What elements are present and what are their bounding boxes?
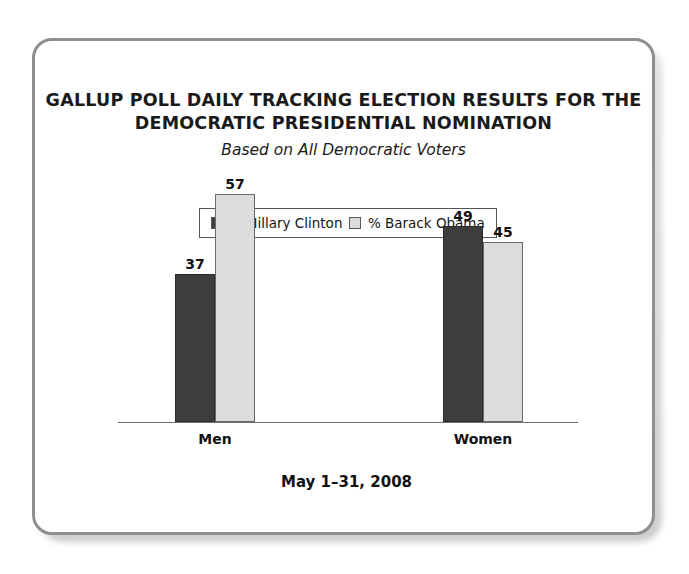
legend-label-clinton: % Hillary Clinton <box>230 215 342 231</box>
bar-value-men-clinton: 37 <box>185 257 204 271</box>
bar-rect-women-obama <box>483 242 523 422</box>
legend-swatch-icon-obama <box>349 217 361 229</box>
legend-item-hillary-clinton: % Hillary Clinton <box>211 215 342 231</box>
chart-title-line-1: GALLUP POLL DAILY TRACKING ELECTION RESU… <box>35 89 652 112</box>
axis-label-women: Women <box>423 431 543 447</box>
legend-label-obama: % Barack Obama <box>368 215 485 231</box>
bar-rect-women-clinton <box>443 226 483 422</box>
bar-value-men-obama: 57 <box>225 177 244 191</box>
bar-rect-men-clinton <box>175 274 215 422</box>
chart-subtitle: Based on All Democratic Voters <box>35 137 652 163</box>
chart-legend: % Hillary Clinton % Barack Obama <box>199 208 497 238</box>
date-range-caption: May 1–31, 2008 <box>35 473 658 491</box>
x-axis-baseline <box>118 422 578 423</box>
title-block: GALLUP POLL DAILY TRACKING ELECTION RESU… <box>35 89 652 163</box>
chart-title-line-2: DEMOCRATIC PRESIDENTIAL NOMINATION <box>35 112 652 135</box>
legend-swatch-icon-clinton <box>211 217 223 229</box>
chart-card: GALLUP POLL DAILY TRACKING ELECTION RESU… <box>32 38 655 535</box>
axis-label-men: Men <box>155 431 275 447</box>
legend-item-barack-obama: % Barack Obama <box>349 215 485 231</box>
